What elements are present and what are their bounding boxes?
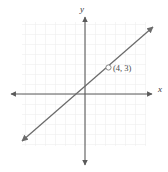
grid-area xyxy=(22,22,146,146)
x-axis-label: x xyxy=(157,84,162,94)
y-axis-label: y xyxy=(79,4,84,14)
data-point-label: (4, 3) xyxy=(113,63,132,73)
graph-canvas: y x (4, 3) xyxy=(0,0,168,172)
coordinate-plane-figure: y x (4, 3) xyxy=(0,0,168,172)
data-point-marker xyxy=(106,65,111,70)
